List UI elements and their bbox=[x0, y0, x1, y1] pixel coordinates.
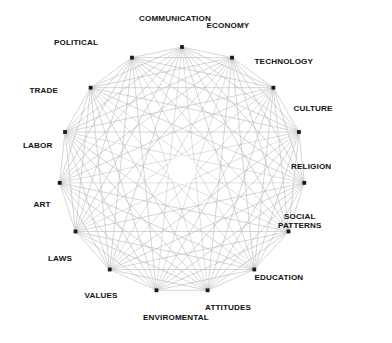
node-label-communication[interactable]: COMMUNICATION bbox=[139, 14, 211, 23]
node-marker-economy[interactable] bbox=[230, 56, 234, 60]
edge bbox=[110, 47, 182, 270]
node-label-trade[interactable]: TRADE bbox=[30, 86, 59, 95]
node-marker-values[interactable] bbox=[108, 268, 112, 272]
edge bbox=[273, 88, 288, 232]
edge bbox=[75, 232, 207, 291]
node-label-political[interactable]: POLITICAL bbox=[54, 38, 98, 47]
edge bbox=[65, 58, 132, 132]
edge bbox=[91, 47, 182, 88]
edge bbox=[208, 270, 255, 291]
node-label-laws[interactable]: LAWS bbox=[48, 254, 72, 263]
edge bbox=[132, 58, 156, 291]
node-label-labor[interactable]: LABOR bbox=[23, 141, 53, 150]
edge bbox=[110, 270, 157, 291]
network-graph-canvas bbox=[0, 0, 392, 343]
edge bbox=[182, 47, 254, 270]
node-label-education[interactable]: EDUCATION bbox=[255, 273, 304, 282]
edge bbox=[75, 232, 109, 270]
edge bbox=[65, 47, 182, 132]
node-marker-technology[interactable] bbox=[272, 86, 276, 90]
node-label-art[interactable]: ART bbox=[34, 200, 51, 209]
edge bbox=[182, 47, 289, 232]
node-label-values[interactable]: VALUES bbox=[85, 291, 118, 300]
edge bbox=[75, 47, 182, 232]
edge bbox=[60, 183, 255, 270]
node-marker-education[interactable] bbox=[252, 268, 256, 272]
edge bbox=[232, 58, 254, 270]
edge bbox=[208, 58, 232, 291]
edge bbox=[208, 88, 274, 291]
node-label-enviromental[interactable]: ENVIROMENTAL bbox=[143, 313, 209, 322]
node-marker-communication[interactable] bbox=[180, 45, 184, 49]
edge bbox=[75, 88, 90, 232]
circular-network-diagram: COMMUNICATIONECONOMYTECHNOLOGYCULTUREREL… bbox=[0, 0, 392, 343]
node-label-religion[interactable]: RELIGION bbox=[291, 162, 331, 171]
node-marker-trade[interactable] bbox=[89, 86, 93, 90]
edge bbox=[254, 232, 288, 270]
node-marker-art[interactable] bbox=[58, 181, 62, 185]
edge bbox=[182, 47, 273, 88]
edge bbox=[232, 58, 299, 132]
edge bbox=[60, 183, 208, 290]
node-label-technology[interactable]: TECHNOLOGY bbox=[255, 57, 314, 66]
center-gap-circle bbox=[168, 156, 196, 184]
edge bbox=[132, 58, 304, 183]
node-label-attitudes[interactable]: ATTITUDES bbox=[205, 303, 251, 312]
edge bbox=[110, 183, 305, 270]
edge bbox=[60, 183, 157, 290]
edge bbox=[75, 183, 304, 232]
node-marker-culture[interactable] bbox=[297, 130, 301, 134]
node-marker-laws[interactable] bbox=[74, 230, 78, 234]
node-marker-labor[interactable] bbox=[63, 130, 67, 134]
edge bbox=[110, 58, 132, 270]
node-label-social-patterns[interactable]: SOCIAL PATTERNS bbox=[278, 212, 322, 230]
edge bbox=[60, 183, 289, 232]
node-marker-political[interactable] bbox=[130, 56, 134, 60]
node-label-culture[interactable]: CULTURE bbox=[294, 104, 333, 113]
node-marker-religion[interactable] bbox=[302, 181, 306, 185]
edge bbox=[91, 88, 157, 291]
center-gap-circle bbox=[168, 156, 196, 184]
edge bbox=[60, 58, 232, 183]
node-marker-enviromental[interactable] bbox=[155, 288, 159, 292]
node-label-economy[interactable]: ECONOMY bbox=[207, 21, 250, 30]
node-marker-attitudes[interactable] bbox=[206, 288, 210, 292]
